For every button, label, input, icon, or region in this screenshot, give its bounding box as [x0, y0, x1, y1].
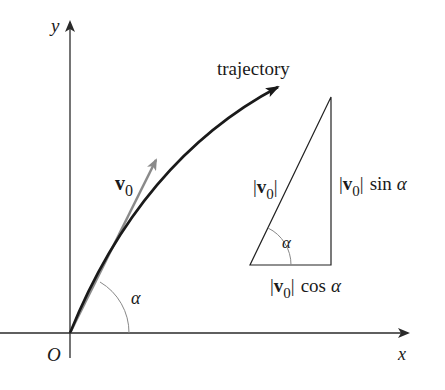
horizontal-component-label: |v0|cosα	[270, 275, 342, 301]
vertical-component-label: |v0|sinα	[339, 173, 408, 199]
x-axis-label: x	[397, 344, 406, 364]
launch-angle-label: α	[131, 288, 141, 308]
hypotenuse-label: |v0|	[253, 176, 278, 202]
trajectory-label: trajectory	[217, 58, 290, 79]
y-axis-label: y	[49, 15, 60, 36]
launch-angle-arc	[100, 282, 129, 333]
component-triangle: α |v0| |v0|sinα |v0|cosα	[250, 97, 408, 301]
velocity-vector-label: v0	[115, 172, 133, 199]
triangle-angle-label: α	[282, 233, 292, 252]
origin-label: O	[47, 344, 61, 365]
trajectory-curve	[70, 87, 278, 333]
projectile-diagram: y x O α v0 trajectory α |v0| |v0|sinα |v…	[0, 0, 445, 390]
